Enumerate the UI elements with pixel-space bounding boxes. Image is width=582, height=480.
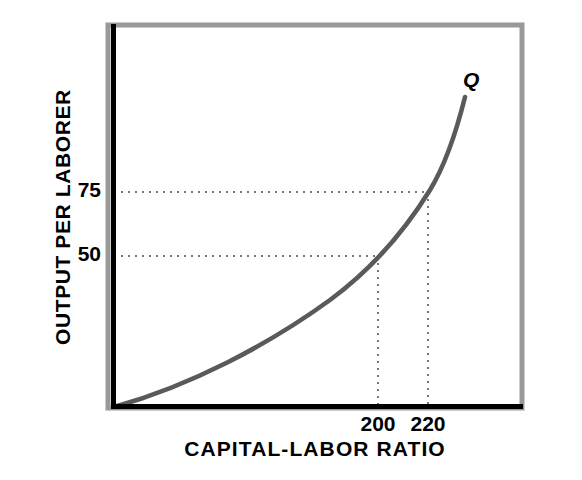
y-tick-labels: 75 50 — [0, 0, 101, 480]
curve-label-q: Q — [463, 68, 479, 92]
x-tick-label-220: 220 — [398, 412, 458, 436]
chart-figure: OUTPUT PER LABORER 75 50 200 220 CAPITAL… — [0, 0, 582, 480]
plot-background — [112, 29, 518, 404]
x-axis-title: CAPITAL-LABOR RATIO — [108, 437, 522, 461]
y-tick-label-50: 50 — [1, 242, 101, 266]
y-tick-label-75: 75 — [1, 178, 101, 202]
